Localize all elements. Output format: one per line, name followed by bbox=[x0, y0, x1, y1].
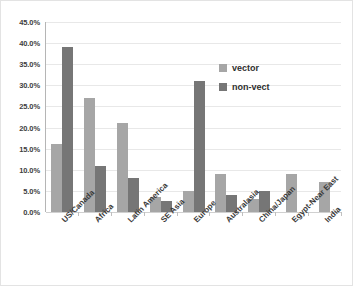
x-label-cell: US/Canada bbox=[46, 212, 79, 286]
y-axis: 45.0%40.0%35.0%30.0%25.0%20.0%15.0%10.0%… bbox=[1, 22, 43, 212]
bar-group bbox=[275, 22, 308, 212]
x-label-cell: SE Asia bbox=[144, 212, 177, 286]
y-tick-label: 25.0% bbox=[19, 102, 40, 111]
bar-group bbox=[79, 22, 112, 212]
x-label-cell: Australasia bbox=[210, 212, 243, 286]
bar-non-vect bbox=[194, 81, 205, 212]
bar-non-vect bbox=[62, 47, 73, 212]
x-label-cell: Latin America bbox=[112, 212, 145, 286]
y-tick-label: 10.0% bbox=[19, 165, 40, 174]
legend-label: vector bbox=[232, 63, 259, 73]
y-tick-label: 30.0% bbox=[19, 81, 40, 90]
bars-layer bbox=[46, 22, 341, 212]
x-label-cell: Egypt-Near East bbox=[275, 212, 308, 286]
bar-vector bbox=[215, 174, 226, 212]
y-tick-label: 35.0% bbox=[19, 60, 40, 69]
bar-group bbox=[243, 22, 276, 212]
y-tick-label: 15.0% bbox=[19, 144, 40, 153]
bar-group bbox=[46, 22, 79, 212]
bar-group bbox=[210, 22, 243, 212]
bar-group bbox=[177, 22, 210, 212]
x-label-cell: China/Japan bbox=[243, 212, 276, 286]
bar-group bbox=[112, 22, 145, 212]
bar-vector bbox=[51, 144, 62, 212]
x-axis: US/CanadaAfricaLatin AmericaSE AsiaEurop… bbox=[46, 212, 341, 286]
bar-vector bbox=[117, 123, 128, 212]
plot-area bbox=[46, 22, 341, 212]
y-tick-label: 0.0% bbox=[23, 208, 40, 217]
y-tick-label: 45.0% bbox=[19, 18, 40, 27]
x-label-cell: Africa bbox=[79, 212, 112, 286]
y-tick-label: 5.0% bbox=[23, 186, 40, 195]
y-tick-label: 40.0% bbox=[19, 39, 40, 48]
legend-item: non-vect bbox=[219, 82, 270, 92]
bar-chart: 45.0%40.0%35.0%30.0%25.0%20.0%15.0%10.0%… bbox=[0, 0, 353, 286]
x-label-cell: Europe bbox=[177, 212, 210, 286]
x-label-cell: India bbox=[308, 212, 341, 286]
chart-legend: vectornon-vect bbox=[219, 63, 270, 101]
legend-label: non-vect bbox=[232, 82, 270, 92]
legend-item: vector bbox=[219, 63, 270, 73]
y-tick-label: 20.0% bbox=[19, 123, 40, 132]
legend-swatch-icon bbox=[219, 83, 227, 91]
legend-swatch-icon bbox=[219, 64, 227, 72]
